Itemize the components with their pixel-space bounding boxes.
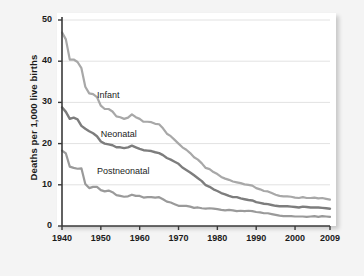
x-tick-label: 1950 bbox=[81, 233, 121, 243]
series-label-neonatal: Neonatal bbox=[101, 129, 137, 139]
y-tick-label: 30 bbox=[28, 96, 52, 106]
axis-lines bbox=[62, 17, 330, 226]
series-label-postneonatal: Postneonatal bbox=[97, 166, 150, 176]
y-tick-label: 0 bbox=[28, 220, 52, 230]
tick-marks bbox=[58, 20, 330, 230]
x-tick-label: 1960 bbox=[120, 233, 160, 243]
x-tick-label: 1970 bbox=[159, 233, 199, 243]
series-label-infant: Infant bbox=[97, 90, 120, 100]
y-tick-label: 10 bbox=[28, 179, 52, 189]
series-lines bbox=[62, 32, 330, 217]
gridlines bbox=[62, 20, 330, 185]
x-tick-label: 2009 bbox=[310, 233, 350, 243]
y-tick-label: 40 bbox=[28, 55, 52, 65]
chart-figure: Deaths per 1,000 live births 01020304050… bbox=[0, 0, 364, 276]
y-tick-label: 50 bbox=[28, 14, 52, 24]
x-tick-label: 1990 bbox=[236, 233, 276, 243]
x-tick-label: 1980 bbox=[197, 233, 237, 243]
y-tick-label: 20 bbox=[28, 138, 52, 148]
x-tick-label: 1940 bbox=[42, 233, 82, 243]
